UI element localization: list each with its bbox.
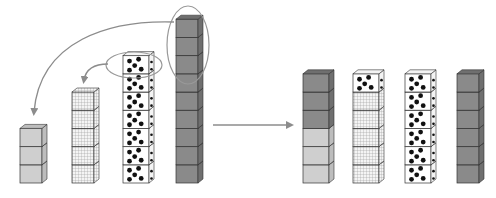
after-tower-2 [353,70,384,183]
after-tower-1 [303,70,334,183]
diagram-canvas [0,0,496,198]
before-tower-4 [176,15,203,183]
before-tower-2 [72,88,99,183]
after-tower-3 [405,70,436,183]
before-tower-3 [123,52,154,183]
after-tower-4 [457,70,484,183]
before-tower-1 [20,124,47,183]
move-arrow-dots-to-grid [84,64,108,80]
